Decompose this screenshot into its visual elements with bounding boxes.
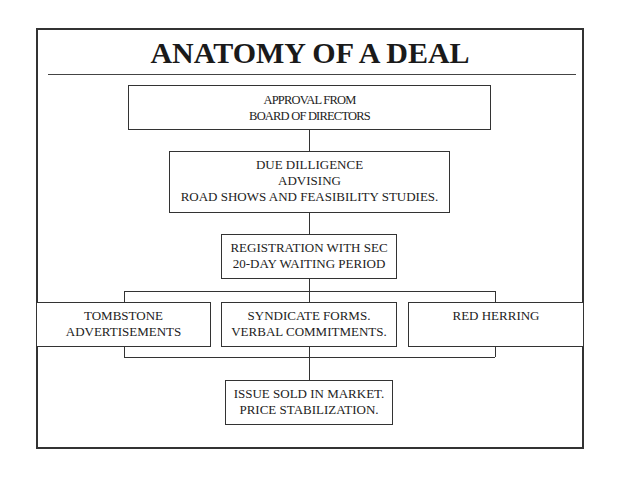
bracket-bottom-mid: [309, 346, 310, 380]
approval-line1: APPROVAL FROM: [263, 92, 355, 108]
bracket-bottom-right: [495, 346, 496, 357]
registration-line2: 20-DAY WAITING PERIOD: [233, 256, 386, 272]
syndicate-line1: SYNDICATE FORMS.: [248, 308, 371, 324]
issue-line2: PRICE STABILIZATION.: [239, 402, 378, 418]
tombstone-line1: TOMBSTONE: [84, 308, 163, 324]
diligence-line3: ROAD SHOWS AND FEASIBILITY STUDIES.: [181, 189, 439, 205]
box-syndicate: SYNDICATE FORMS. VERBAL COMMITMENTS.: [221, 302, 397, 347]
bracket-top-left: [124, 291, 125, 302]
syndicate-line2: VERBAL COMMITMENTS.: [231, 324, 387, 340]
box-red-herring: RED HERRING: [408, 302, 584, 347]
registration-line1: REGISTRATION WITH SEC: [230, 240, 387, 256]
diligence-line1: DUE DILLIGENCE: [256, 157, 363, 173]
connector-diligence-registration: [309, 212, 310, 234]
box-issue: ISSUE SOLD IN MARKET. PRICE STABILIZATIO…: [225, 380, 393, 425]
box-approval: APPROVAL FROM BOARD OF DIRECTORS: [128, 85, 491, 130]
red-herring-line1: RED HERRING: [452, 308, 539, 324]
tombstone-line2: ADVERTISEMENTS: [66, 324, 182, 340]
bracket-top-mid: [309, 291, 310, 302]
box-registration: REGISTRATION WITH SEC 20-DAY WAITING PER…: [221, 234, 397, 279]
title-rule: [48, 74, 576, 75]
diagram-title: ANATOMY OF A DEAL: [0, 36, 620, 70]
connector-registration-bracket: [309, 278, 310, 291]
box-tombstone: TOMBSTONE ADVERTISEMENTS: [36, 302, 211, 347]
diligence-line2: ADVISING: [278, 173, 341, 189]
approval-line2: BOARD OF DIRECTORS: [249, 108, 370, 124]
connector-approval-diligence: [309, 129, 310, 151]
bracket-bottom-left: [124, 346, 125, 357]
bracket-top-right: [495, 291, 496, 302]
issue-line1: ISSUE SOLD IN MARKET.: [234, 386, 385, 402]
box-diligence: DUE DILLIGENCE ADVISING ROAD SHOWS AND F…: [169, 151, 450, 213]
